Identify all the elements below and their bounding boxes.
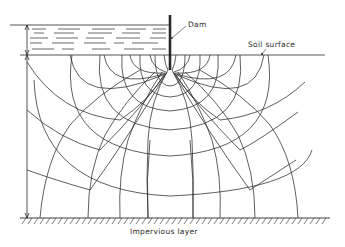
dam-leader-dot — [171, 37, 173, 39]
flow-lines — [27, 55, 312, 213]
dam-label: Dam — [188, 20, 207, 29]
impervious-layer — [20, 218, 330, 224]
equipotential-lines — [27, 55, 305, 218]
impervious-layer-label: Impervious layer — [130, 227, 198, 236]
dam-leader-line — [172, 26, 186, 38]
soil-leader-dot — [261, 53, 263, 55]
flow-net-diagram — [0, 0, 345, 247]
dimension-line — [25, 25, 29, 218]
impervious-hatching — [22, 218, 326, 224]
upstream-water — [10, 25, 170, 49]
water-hatching — [30, 29, 166, 49]
soil-surface-label: Soil surface — [248, 40, 295, 49]
